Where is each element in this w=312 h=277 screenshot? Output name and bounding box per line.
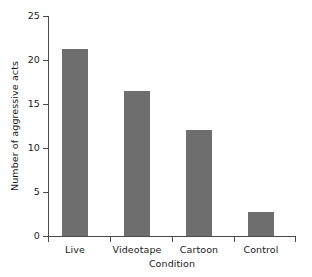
y-tick-label-10: 10 [16,143,40,153]
y-tick-label-20: 20 [16,55,40,65]
x-tick-3 [234,237,235,242]
bar-cartoon [186,130,212,236]
x-tick-1 [110,237,111,242]
y-tick-10 [43,148,48,149]
y-tick-label-15: 15 [16,99,40,109]
y-tick-15 [43,104,48,105]
y-tick-20 [43,60,48,61]
x-tick-0 [48,237,49,242]
y-tick-25 [43,16,48,17]
y-tick-label-5: 5 [16,187,40,197]
x-tick-label-control: Control [230,244,292,256]
x-tick-label-live: Live [44,244,106,256]
x-tick-2 [172,237,173,242]
y-axis-line [48,16,49,237]
y-tick-label-0: 0 [16,231,40,241]
bar-live [62,49,88,236]
y-tick-5 [43,192,48,193]
bar-control [248,212,274,236]
x-tick-4 [295,237,296,242]
bar-chart: Number of aggressive acts 0 5 10 15 20 2… [0,0,312,277]
x-tick-label-cartoon: Cartoon [168,244,230,256]
x-axis-title: Condition [48,258,296,269]
x-tick-label-videotape: Videotape [106,244,168,256]
bar-videotape [124,91,150,236]
y-tick-label-25: 25 [16,11,40,21]
